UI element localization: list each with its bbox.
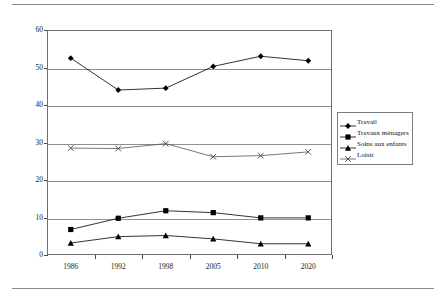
y-tick-label-10: 10 xyxy=(21,214,43,222)
legend-label: Loisir xyxy=(356,151,374,160)
series-line-3 xyxy=(71,144,309,157)
x-tick-mark-0 xyxy=(95,255,96,259)
data-point-0-1 xyxy=(115,87,121,93)
series-0 xyxy=(68,53,311,93)
y-tick-label-50: 50 xyxy=(21,64,43,72)
x-tick-mark-5 xyxy=(332,255,333,259)
diamond-marker-icon xyxy=(340,117,356,127)
y-tick-label-40: 40 xyxy=(21,101,43,109)
series-line-1 xyxy=(71,211,309,230)
x-tick-label-2010: 2010 xyxy=(241,262,281,271)
series-line-0 xyxy=(71,56,309,90)
legend-item-cross[interactable]: Loisir xyxy=(340,150,409,160)
y-tick-label-30: 30 xyxy=(21,139,43,147)
x-axis-tick-labels: 198619921998200520102020 xyxy=(47,262,332,276)
x-axis-tick-marks xyxy=(47,255,332,260)
data-point-1-0 xyxy=(68,227,73,232)
x-tick-mark-3 xyxy=(237,255,238,259)
data-point-1-5 xyxy=(306,215,311,220)
data-point-1-4 xyxy=(258,215,263,220)
x-tick-label-1986: 1986 xyxy=(51,262,91,271)
y-tick-label-60: 60 xyxy=(21,26,43,34)
data-point-1-2 xyxy=(163,208,168,213)
data-point-0-3 xyxy=(210,63,216,69)
data-point-0-0 xyxy=(68,55,74,61)
legend-label: Travail xyxy=(356,118,377,127)
square-marker-icon xyxy=(340,128,356,138)
chart-legend: TravailTravaux ménagersSoins aux enfants… xyxy=(337,112,413,165)
data-point-1-3 xyxy=(211,210,216,215)
x-tick-label-2020: 2020 xyxy=(288,262,328,271)
series-2 xyxy=(68,232,312,246)
y-tick-label-20: 20 xyxy=(21,176,43,184)
x-tick-mark-4 xyxy=(285,255,286,259)
x-tick-label-2005: 2005 xyxy=(193,262,233,271)
x-tick-mark-2 xyxy=(190,255,191,259)
line-chart-figure: 6050403020100 198619921998200520102020 T… xyxy=(0,0,446,297)
cross-marker-icon xyxy=(340,150,356,160)
x-tick-label-1992: 1992 xyxy=(98,262,138,271)
y-tick-label-0: 0 xyxy=(21,251,43,259)
legend-label: Travaux ménagers xyxy=(356,129,409,138)
x-tick-label-1998: 1998 xyxy=(146,262,186,271)
legend-item-triangle[interactable]: Soins aux enfants xyxy=(340,139,409,149)
series-layer xyxy=(47,30,332,255)
x-tick-mark-1 xyxy=(142,255,143,259)
series-line-2 xyxy=(71,236,309,244)
legend-item-diamond[interactable]: Travail xyxy=(340,117,409,127)
triangle-marker-icon xyxy=(340,139,356,149)
data-point-0-4 xyxy=(258,53,264,59)
legend-label: Soins aux enfants xyxy=(356,140,406,149)
legend-item-square[interactable]: Travaux ménagers xyxy=(340,128,409,138)
data-point-0-5 xyxy=(305,58,311,64)
y-axis-tick-labels: 6050403020100 xyxy=(19,30,43,255)
series-1 xyxy=(68,208,311,232)
data-point-0-2 xyxy=(163,85,169,91)
series-3 xyxy=(68,141,311,160)
data-point-1-1 xyxy=(116,216,121,221)
